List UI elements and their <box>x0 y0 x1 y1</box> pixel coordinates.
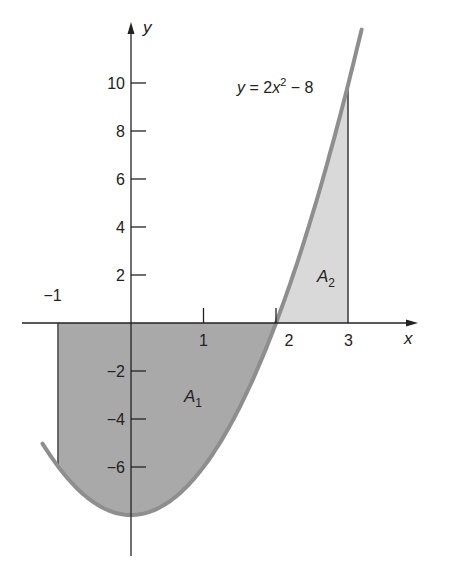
y-axis-arrow-icon <box>128 22 135 34</box>
y-tick-label: 6 <box>116 171 125 188</box>
x-tick-label: −1 <box>43 287 61 304</box>
region-a1 <box>59 323 277 515</box>
y-tick-label: −2 <box>107 363 125 380</box>
x-tick-label: 2 <box>285 332 294 349</box>
y-tick-label: 8 <box>116 123 125 140</box>
y-tick-label: −6 <box>107 459 125 476</box>
equation-label: y = 2x2 − 8 <box>236 76 314 96</box>
y-tick-label: −4 <box>107 411 125 428</box>
x-axis-label: x <box>403 329 413 348</box>
x-tick-label: 1 <box>199 332 208 349</box>
x-tick-label: 3 <box>344 332 353 349</box>
x-axis-arrow-icon <box>406 320 418 327</box>
y-tick-label: 2 <box>116 267 125 284</box>
y-tick-label: 4 <box>116 219 125 236</box>
graph-canvas: 108642−2−4−6 −1123 y x y = 2x2 − 8 A1 A2 <box>0 0 449 572</box>
y-axis-label: y <box>142 18 153 37</box>
y-tick-label: 10 <box>107 75 125 92</box>
